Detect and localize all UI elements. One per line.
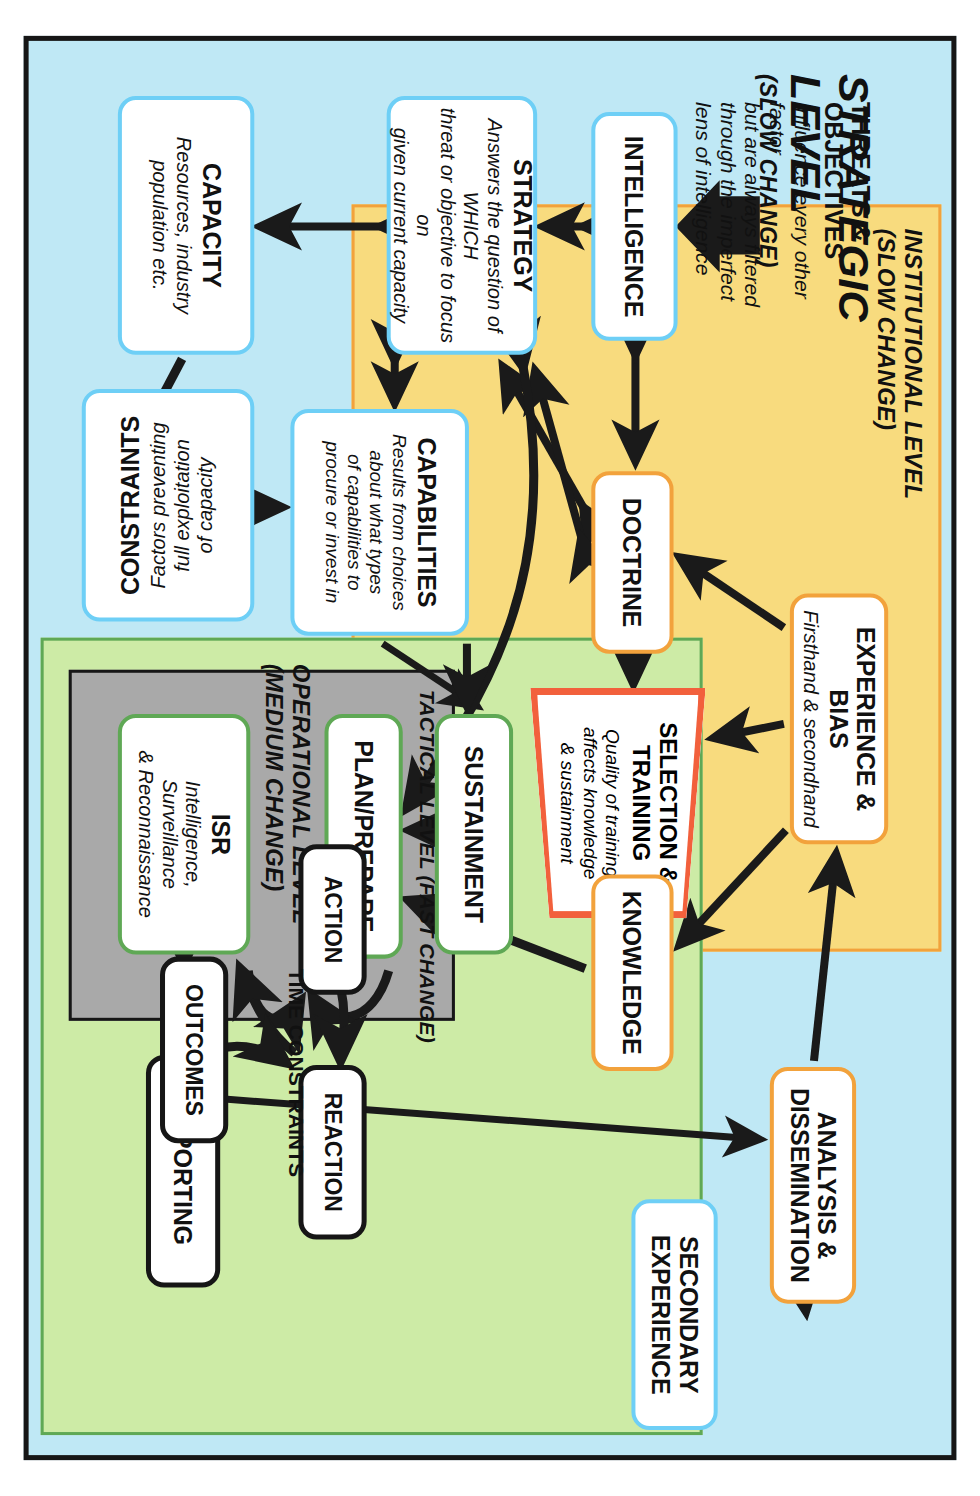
node-title: ANALYSIS & DISSEMINATION	[786, 1088, 840, 1283]
node-sustainment[interactable]: SUSTAINMENT	[435, 714, 513, 955]
node-action[interactable]: ACTION	[298, 844, 366, 994]
node-strategy[interactable]: STRATEGY Answers the question of WHICH t…	[387, 96, 537, 355]
node-title: THREATS & OBJECTIVES	[820, 102, 874, 346]
node-title: SUSTAINMENT	[460, 746, 487, 923]
node-subtitle: Answers the question of WHICH threat or …	[388, 106, 506, 345]
node-subtitle: Firsthand & secondhand	[799, 610, 823, 827]
node-subtitle: Quality of training affects knowledge & …	[555, 727, 624, 880]
node-title: CAPACITY	[198, 163, 225, 288]
node-title: REACTION	[320, 1093, 345, 1212]
node-title: OUTCOMES	[182, 984, 207, 1116]
node-title: ACTION	[320, 876, 345, 963]
node-outcomes[interactable]: OUTCOMES	[160, 957, 228, 1144]
node-subtitle: Results from choices about what types of…	[320, 434, 410, 611]
node-secondary-experience[interactable]: SECONDARY EXPERIENCE	[631, 1199, 717, 1430]
panel-title-institutional: INSTITUTIONAL LEVEL (SLOW CHANGE)	[872, 228, 926, 499]
node-capabilities[interactable]: CAPABILITIES Results from choices about …	[290, 409, 469, 636]
node-reaction[interactable]: REACTION	[298, 1065, 366, 1240]
diagram-page: STRATEGIC LEVEL (SLOW CHANGE) INSTITUTIO…	[0, 0, 980, 1496]
diagram-stage: STRATEGIC LEVEL (SLOW CHANGE) INSTITUTIO…	[24, 36, 957, 1460]
node-title: EXPERIENCE & BIAS	[825, 604, 879, 835]
node-knowledge[interactable]: KNOWLEDGE	[591, 874, 673, 1071]
node-title: ISR	[208, 814, 235, 855]
node-threats-objectives: THREATS & OBJECTIVES Influence every oth…	[686, 96, 878, 352]
node-title: CAPABILITIES	[413, 437, 440, 607]
node-title: KNOWLEDGE	[619, 891, 646, 1055]
node-subtitle: Resources, industry population etc.	[147, 137, 194, 314]
node-constraints[interactable]: CONSTRAINTS Factors preventing full expl…	[82, 389, 255, 622]
node-title: DOCTRINE	[619, 498, 646, 627]
node-title: STRATEGY	[509, 159, 536, 292]
node-isr[interactable]: ISR Intelligence, Surveillance & Reconna…	[118, 714, 250, 955]
node-subtitle: Factors preventing full exploitation of …	[148, 422, 219, 588]
node-subtitle: Intelligence, Surveillance & Reconnaissa…	[134, 724, 205, 945]
node-subtitle: Influence every other factor but are alw…	[690, 102, 814, 346]
node-title: CONSTRAINTS	[117, 416, 144, 595]
node-doctrine[interactable]: DOCTRINE	[591, 471, 673, 654]
node-title: SECONDARY EXPERIENCE	[647, 1235, 701, 1395]
label-time-constraints: TIME CONSTRAINTS	[284, 969, 308, 1177]
node-title: INTELLIGENCE	[621, 136, 648, 317]
node-analysis-dissemination[interactable]: ANALYSIS & DISSEMINATION	[770, 1067, 856, 1304]
node-experience-bias[interactable]: EXPERIENCE & BIAS Firsthand & secondhand	[790, 594, 888, 845]
node-intelligence[interactable]: INTELLIGENCE	[591, 112, 677, 341]
node-constraints-inner: CONSTRAINTS Factors preventing full expl…	[117, 416, 218, 595]
node-title: SELECTION & TRAINING	[628, 722, 681, 884]
node-capacity[interactable]: CAPACITY Resources, industry population …	[118, 96, 254, 355]
